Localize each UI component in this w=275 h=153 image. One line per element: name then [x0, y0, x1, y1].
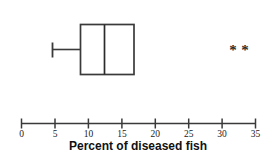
- outlier-marker-2: *: [241, 42, 249, 58]
- boxplot-svg: * * 0 5 10 15 20 25 30 35 Percent of: [0, 0, 275, 152]
- x-tick-label-20: 20: [151, 129, 161, 139]
- x-tick-label-5: 5: [53, 129, 58, 139]
- x-tick-label-30: 30: [217, 129, 227, 139]
- x-axis: 0 5 10 15 20 25 30 35 Percent of disease…: [19, 119, 260, 153]
- x-tick-label-10: 10: [84, 129, 94, 139]
- boxplot-glyph: * *: [53, 25, 249, 75]
- x-tick-label-35: 35: [251, 129, 261, 139]
- boxplot-figure: * * 0 5 10 15 20 25 30 35 Percent of: [0, 0, 275, 152]
- x-tick-label-25: 25: [184, 129, 194, 139]
- x-tick-label-15: 15: [117, 129, 127, 139]
- box-rect: [81, 25, 135, 75]
- x-tick-label-0: 0: [19, 129, 24, 139]
- outlier-marker-1: *: [229, 42, 237, 58]
- x-axis-title: Percent of diseased fish: [69, 139, 207, 152]
